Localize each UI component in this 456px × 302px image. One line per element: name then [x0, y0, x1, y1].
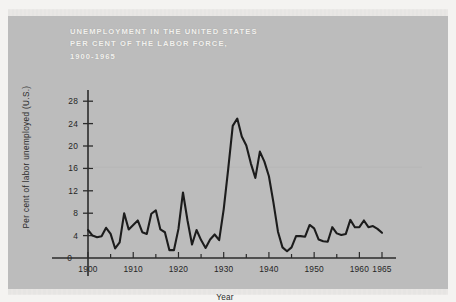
x-tick-label: 1910	[120, 264, 146, 274]
x-tick-label: 1930	[211, 264, 237, 274]
chart-svg	[8, 10, 448, 294]
x-tick-label: 1940	[256, 264, 282, 274]
y-tick-label: 4	[56, 231, 78, 241]
y-tick-label: 8	[56, 208, 78, 218]
y-tick-label: 12	[56, 186, 78, 196]
printed-plate: UNEMPLOYMENT IN THE UNITED STATES PER CE…	[8, 10, 448, 294]
x-tick-label: 1950	[301, 264, 327, 274]
y-tick-label: 20	[56, 141, 78, 151]
x-tick-label: 1920	[165, 264, 191, 274]
x-tick-label: 1900	[75, 264, 101, 274]
y-tick-label: 0	[56, 253, 72, 263]
x-axis-label: Year	[216, 293, 234, 302]
y-tick-label: 28	[56, 96, 78, 106]
y-tick-label: 24	[56, 119, 78, 129]
y-tick-label: 16	[56, 163, 78, 173]
plot-area: UNEMPLOYMENT IN THE UNITED STATES PER CE…	[8, 10, 448, 294]
x-tick-label: 1965	[369, 264, 395, 274]
figure-root: UNEMPLOYMENT IN THE UNITED STATES PER CE…	[0, 0, 456, 302]
